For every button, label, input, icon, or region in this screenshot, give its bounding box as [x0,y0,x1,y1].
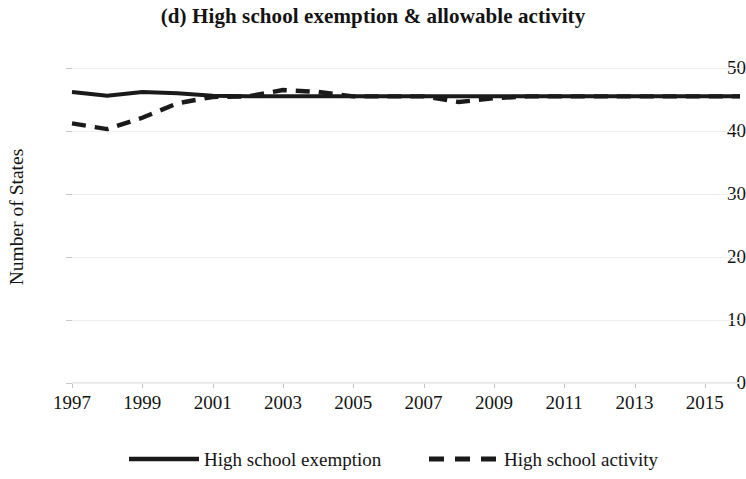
dashed-line-swatch [428,452,500,466]
legend-item-activity: High school activity [428,446,658,472]
legend-label-exemption: High school exemption [204,450,381,469]
legend-label-activity: High school activity [504,450,658,469]
x-tick-label: 2015 [670,392,740,414]
gridline [72,383,740,384]
x-tick-label: 1999 [107,392,177,414]
chart-figure: (d) High school exemption & allowable ac… [0,0,746,479]
x-tick-label: 2001 [178,392,248,414]
solid-line-swatch [128,452,200,466]
x-tick-label: 1997 [37,392,107,414]
x-tick-label: 2007 [389,392,459,414]
x-tick-label: 2005 [318,392,388,414]
y-axis-title: Number of States [6,102,28,332]
x-tick-label: 2011 [529,392,599,414]
x-tick-label: 2003 [248,392,318,414]
x-tick-label: 2009 [459,392,529,414]
chart-title: (d) High school exemption & allowable ac… [0,4,746,29]
x-tick-label: 2013 [600,392,670,414]
plot-area [72,68,740,383]
chart-legend: High school exemption High school activi… [0,446,746,476]
series-lines [72,68,740,383]
legend-item-exemption: High school exemption [128,446,381,472]
